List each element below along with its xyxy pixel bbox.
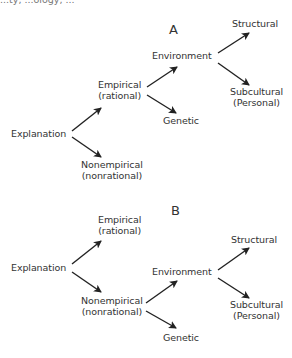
node-nonempirical: Nonempirical (nonrational)	[81, 295, 143, 317]
arrow-a-environment-structural	[218, 33, 249, 53]
arrow-b-explanation-nonempirical	[72, 272, 101, 292]
arrow-b-explanation-empirical	[72, 241, 101, 264]
node-explanation: Explanation	[11, 262, 66, 273]
arrow-a-empirical-genetic	[147, 95, 176, 113]
node-subcultural: Subcultural (Personal)	[230, 86, 283, 108]
arrow-b-environment-subcultural	[218, 278, 249, 298]
arrow-a-environment-subcultural	[218, 63, 249, 85]
arrow-b-nonempirical-genetic	[146, 311, 176, 328]
node-structural: Structural	[231, 234, 277, 245]
arrow-a-explanation-nonempirical	[72, 137, 101, 157]
node-empirical: Empirical (rational)	[98, 214, 141, 236]
node-nonempirical: Nonempirical (nonrational)	[81, 159, 143, 181]
node-structural: Structural	[232, 18, 278, 29]
diagram-label-a: A	[169, 22, 178, 37]
arrow-a-explanation-empirical	[72, 108, 101, 131]
node-environment: Environment	[152, 50, 212, 61]
diagram-label-b: B	[171, 203, 180, 218]
arrow-b-nonempirical-environment	[146, 281, 177, 303]
node-genetic: Genetic	[163, 332, 199, 343]
node-subcultural: Subcultural (Personal)	[230, 299, 283, 321]
node-genetic: Genetic	[163, 115, 199, 126]
arrow-a-empirical-environment	[147, 67, 177, 87]
node-explanation: Explanation	[11, 128, 66, 139]
arrow-b-environment-structural	[218, 248, 249, 270]
node-empirical: Empirical (rational)	[98, 79, 141, 101]
node-environment: Environment	[152, 266, 212, 277]
